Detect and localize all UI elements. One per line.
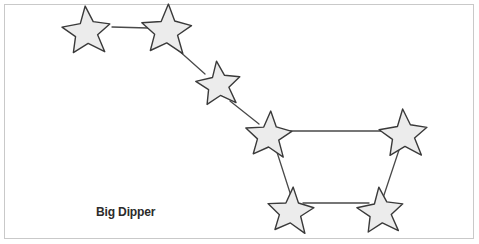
constellation-link [112, 27, 148, 28]
star-megrez [246, 111, 292, 157]
big-dipper-figure: Big Dipper [0, 0, 479, 244]
constellation-links [112, 27, 399, 203]
constellation-diagram [0, 0, 479, 244]
constellation-stars [62, 4, 427, 233]
star-mizar [142, 4, 192, 54]
star-alkaid [62, 6, 110, 53]
star-merak [268, 187, 314, 233]
star-alioth [196, 61, 240, 104]
star-dubhe [379, 109, 427, 155]
constellation-link [383, 150, 399, 198]
constellation-link [230, 101, 259, 124]
star-phecda [357, 187, 403, 232]
figure-caption: Big Dipper [96, 204, 155, 219]
